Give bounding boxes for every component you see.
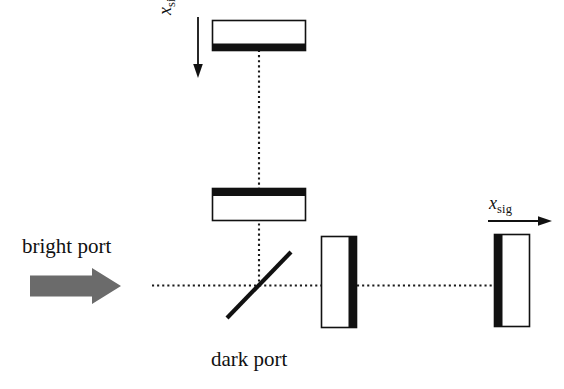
input-arrow	[30, 268, 121, 304]
xsig-top-variable: x	[155, 7, 175, 15]
xsig-right-label: xsig	[489, 194, 512, 216]
mirror-far-right[interactable]	[495, 235, 530, 327]
xsig-right-variable: x	[489, 193, 497, 213]
xsig-right-subscript: sig	[497, 202, 512, 216]
xsig-right-arrow-head	[538, 216, 552, 226]
xsig-right-arrow	[488, 216, 552, 226]
xsig-top-subscript: sig	[164, 0, 178, 7]
mirror-top-coating	[213, 44, 306, 52]
figure-canvas: bright port dark port xsig xsig	[0, 0, 564, 389]
mirror-inner-right-coating	[349, 237, 357, 328]
mirror-far-right-coating	[495, 235, 503, 327]
interferometer-schematic	[0, 0, 564, 389]
mirror-top[interactable]	[213, 21, 306, 52]
xsig-top-arrow	[193, 17, 203, 78]
dark-port-label: dark port	[211, 349, 287, 370]
mirror-inner-right[interactable]	[322, 237, 357, 328]
mirror-middle-coating	[213, 189, 306, 197]
mirror-middle[interactable]	[213, 189, 306, 221]
xsig-top-label: xsig	[156, 0, 178, 15]
xsig-top-arrow-head	[193, 64, 203, 78]
bright-port-label: bright port	[22, 236, 111, 257]
